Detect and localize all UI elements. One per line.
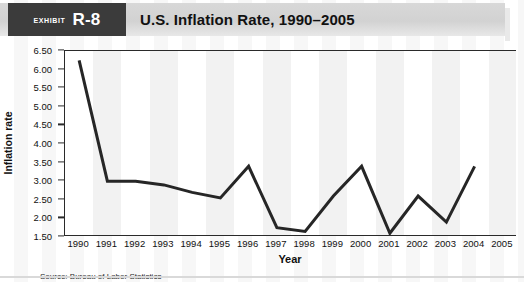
- x-axis-title: Year: [64, 253, 516, 265]
- exhibit-number: R-8: [72, 10, 100, 30]
- y-tick-label: 4.00: [34, 138, 53, 149]
- y-tick-label: 3.50: [34, 156, 53, 167]
- inflation-line-series: [65, 51, 516, 236]
- y-tick-label: 5.50: [34, 82, 53, 93]
- bottom-divider: [0, 276, 527, 278]
- x-tick-label: 2002: [407, 238, 428, 249]
- x-tick-label: 1997: [265, 238, 286, 249]
- exhibit-figure: Exhibit R-8 U.S. Inflation Rate, 1990–20…: [0, 0, 527, 282]
- y-tick-label: 5.00: [34, 100, 53, 111]
- y-tick-label: 6.00: [34, 63, 53, 74]
- exhibit-label: Exhibit: [34, 14, 66, 25]
- x-tick-label: 2004: [463, 238, 484, 249]
- page-title: U.S. Inflation Rate, 1990–2005: [140, 3, 355, 36]
- y-tick-label: 1.50: [34, 231, 53, 242]
- x-axis-tick-labels: 1990199119921993199419951996199719981999…: [64, 238, 516, 254]
- x-tick-label: 1998: [294, 238, 315, 249]
- y-tick-label: 3.00: [34, 175, 53, 186]
- series-polyline: [79, 60, 475, 233]
- plot-frame: [64, 50, 516, 236]
- y-tick-label: 2.00: [34, 212, 53, 223]
- x-tick-label: 1999: [322, 238, 343, 249]
- x-tick-label: 2000: [350, 238, 371, 249]
- x-tick-label: 1992: [124, 238, 145, 249]
- y-tick-label: 4.50: [34, 119, 53, 130]
- header-band-edge-shadow: [505, 8, 510, 41]
- x-tick-label: 1994: [181, 238, 202, 249]
- x-tick-label: 2005: [491, 238, 512, 249]
- x-tick-label: 2003: [435, 238, 456, 249]
- y-axis-tick-labels: 6.506.005.505.004.504.003.503.002.502.00…: [0, 50, 60, 236]
- x-tick-label: 1990: [68, 238, 89, 249]
- x-tick-label: 1995: [209, 238, 230, 249]
- y-tick-label: 6.50: [34, 45, 53, 56]
- chart-area: Inflation rate 6.506.005.505.004.504.003…: [0, 40, 527, 282]
- x-tick-label: 1991: [96, 238, 117, 249]
- y-tick-label: 2.50: [34, 193, 53, 204]
- exhibit-tag: Exhibit R-8: [8, 3, 126, 36]
- x-tick-label: 1993: [152, 238, 173, 249]
- x-tick-label: 1996: [237, 238, 258, 249]
- x-tick-label: 2001: [378, 238, 399, 249]
